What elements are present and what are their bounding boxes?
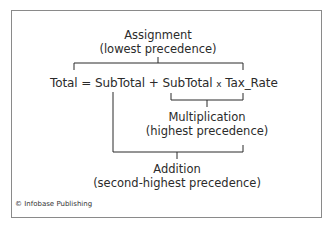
- eq-term3: Tax_Rate: [225, 76, 278, 90]
- credit-text: © Infobase Publishing: [15, 200, 92, 208]
- eq-add-op: +: [149, 76, 159, 90]
- eq-term1: SubTotal: [95, 76, 145, 90]
- eq-mul-op: x: [216, 79, 221, 89]
- eq-assign-op: =: [81, 76, 91, 90]
- assignment-label: Assignment (lowest precedence): [99, 28, 216, 56]
- equation: Total = SubTotal + SubTotal x Tax_Rate: [50, 76, 278, 90]
- addition-label: Addition (second-highest precedence): [93, 162, 261, 190]
- assignment-title: Assignment: [99, 28, 216, 42]
- addition-title: Addition: [93, 162, 261, 176]
- multiplication-label: Multiplication (highest precedence): [146, 110, 269, 138]
- addition-subtitle: (second-highest precedence): [93, 176, 261, 190]
- eq-lhs: Total: [50, 76, 78, 90]
- multiplication-title: Multiplication: [146, 110, 269, 124]
- assignment-subtitle: (lowest precedence): [99, 42, 216, 56]
- multiplication-subtitle: (highest precedence): [146, 124, 269, 138]
- eq-term2: SubTotal: [162, 76, 212, 90]
